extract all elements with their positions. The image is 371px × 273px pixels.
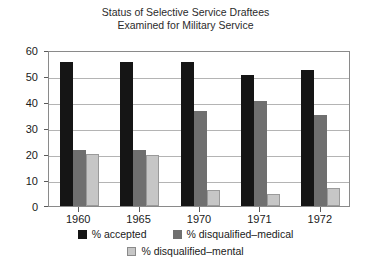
x-axis-tick bbox=[259, 207, 260, 212]
legend-item-disqualified-mental: % disqualified–mental bbox=[127, 245, 243, 257]
x-axis-label: 1965 bbox=[126, 213, 150, 225]
bar bbox=[301, 70, 314, 207]
legend-label-disqualified-mental: % disqualified–mental bbox=[141, 245, 243, 257]
bar-group bbox=[181, 52, 220, 206]
bar bbox=[181, 62, 194, 206]
bar bbox=[86, 154, 99, 206]
x-axis-label: 1970 bbox=[187, 213, 211, 225]
bar-group bbox=[301, 52, 340, 206]
legend-row-2: % disqualified–mental bbox=[0, 245, 371, 257]
x-axis-label: 1972 bbox=[308, 213, 332, 225]
plot-area bbox=[48, 51, 350, 207]
x-axis-tick bbox=[320, 207, 321, 212]
y-axis-label: 20 bbox=[26, 149, 38, 161]
x-axis-ticks bbox=[48, 207, 350, 212]
bar bbox=[267, 194, 280, 206]
chart-title: Status of Selective Service Draftees Exa… bbox=[0, 6, 371, 32]
bar bbox=[327, 188, 340, 206]
chart-title-line-2: Examined for Military Service bbox=[0, 19, 371, 32]
y-axis-labels: 0102030405060 bbox=[0, 51, 44, 207]
y-axis-label: 10 bbox=[26, 175, 38, 187]
bar-group bbox=[120, 52, 159, 206]
legend-swatch-disqualified-medical-icon bbox=[173, 230, 182, 239]
bar bbox=[254, 101, 267, 206]
x-axis-tick bbox=[139, 207, 140, 212]
x-axis-labels: 19601965197019711972 bbox=[48, 213, 350, 227]
legend-item-disqualified-medical: % disqualified–medical bbox=[173, 228, 294, 240]
legend-swatch-accepted-icon bbox=[78, 230, 87, 239]
bar bbox=[146, 155, 159, 206]
bar bbox=[120, 62, 133, 206]
bar-group bbox=[60, 52, 99, 206]
bar bbox=[194, 111, 207, 206]
x-axis-tick bbox=[199, 207, 200, 212]
bars-layer bbox=[49, 52, 349, 206]
legend-item-accepted: % accepted bbox=[78, 228, 147, 240]
x-axis-label: 1971 bbox=[247, 213, 271, 225]
legend-label-disqualified-medical: % disqualified–medical bbox=[187, 228, 294, 240]
legend-swatch-disqualified-mental-icon bbox=[127, 247, 136, 256]
bar-group bbox=[241, 52, 280, 206]
y-axis-label: 60 bbox=[26, 45, 38, 57]
chart-title-line-1: Status of Selective Service Draftees bbox=[0, 6, 371, 19]
legend-label-accepted: % accepted bbox=[92, 228, 147, 240]
bar bbox=[241, 75, 254, 206]
bar bbox=[73, 150, 86, 206]
y-axis-label: 50 bbox=[26, 71, 38, 83]
bar bbox=[133, 150, 146, 206]
y-axis-label: 30 bbox=[26, 123, 38, 135]
y-axis-label: 40 bbox=[26, 97, 38, 109]
bar bbox=[314, 115, 327, 206]
x-axis-tick bbox=[78, 207, 79, 212]
bar bbox=[207, 190, 220, 206]
bar bbox=[60, 62, 73, 206]
legend-row-1: % accepted % disqualified–medical bbox=[0, 228, 371, 240]
chart-legend: % accepted % disqualified–medical % disq… bbox=[0, 228, 371, 262]
x-axis-label: 1960 bbox=[66, 213, 90, 225]
y-axis-label: 0 bbox=[32, 201, 38, 213]
